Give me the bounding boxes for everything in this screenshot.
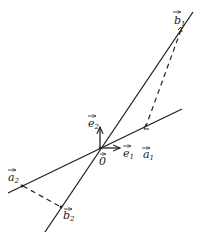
svg-text:a1: a1 <box>143 148 154 162</box>
label-b2: b2 <box>63 209 75 223</box>
line-b <box>45 12 193 232</box>
label-e2: e2 <box>88 116 100 131</box>
svg-text:a2: a2 <box>8 171 20 185</box>
dashed-a2-b2 <box>23 186 61 207</box>
vector-diagram: b1 a1 e2 e1 0 a2 b2 <box>0 0 201 240</box>
label-a1: a1 <box>142 148 154 162</box>
point-a2 <box>21 185 24 188</box>
point-b2 <box>60 206 63 209</box>
svg-text:e1: e1 <box>123 147 134 161</box>
svg-text:b2: b2 <box>63 209 75 223</box>
svg-text:e2: e2 <box>88 117 100 131</box>
svg-text:0: 0 <box>99 155 106 168</box>
label-b1: b1 <box>173 12 186 28</box>
label-origin: 0 <box>99 154 106 168</box>
label-a2: a2 <box>8 170 20 185</box>
point-origin <box>99 147 101 149</box>
svg-text:b1: b1 <box>174 14 186 28</box>
line-a <box>8 109 182 193</box>
label-e1: e1 <box>123 146 134 161</box>
